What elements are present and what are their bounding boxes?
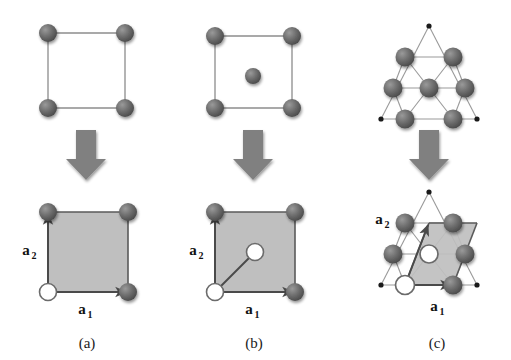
vector-label-a2-subscript: 2	[385, 219, 390, 230]
atom	[396, 110, 415, 129]
atom	[384, 245, 403, 264]
basis-center-circle	[420, 245, 438, 263]
vector-label-a1-subscript: 1	[88, 309, 93, 320]
atom	[444, 276, 463, 295]
panel-caption-a: (a)	[79, 335, 96, 352]
atom	[444, 110, 463, 129]
atom	[39, 99, 57, 117]
panel-caption-b: (b)	[245, 335, 263, 352]
atom	[119, 203, 137, 221]
lattice-site-dot	[426, 189, 431, 194]
atom	[39, 24, 57, 42]
lattice-site-dot	[474, 116, 479, 121]
vector-label-a2: a	[375, 211, 383, 227]
lattice-site-dot	[378, 116, 383, 121]
vector-label-a1-subscript: 1	[440, 306, 445, 317]
atom	[116, 24, 134, 42]
vector-label-a2-subscript: 2	[32, 250, 37, 261]
unit-cell-area	[48, 212, 128, 292]
atom	[286, 283, 304, 301]
atom	[444, 214, 463, 233]
atom	[420, 79, 439, 98]
atom	[39, 203, 57, 221]
atom	[396, 48, 415, 67]
atom	[206, 99, 224, 117]
atom	[396, 214, 415, 233]
atom	[119, 283, 137, 301]
lattice-site-dot	[474, 282, 479, 287]
atom	[283, 99, 301, 117]
basis-origin-circle	[40, 284, 57, 301]
lattice-site-dot	[378, 282, 383, 287]
atom	[283, 27, 301, 45]
atom	[116, 99, 134, 117]
atom	[286, 203, 304, 221]
vector-label-a1: a	[245, 301, 253, 317]
atom	[456, 79, 475, 98]
basis-origin-circle	[207, 284, 224, 301]
atom	[456, 245, 475, 264]
atom	[206, 27, 224, 45]
basis-origin-circle	[396, 276, 415, 295]
lattice-figure: a 2 a 1 a 2 a 1	[0, 0, 511, 360]
vector-label-a1: a	[430, 298, 438, 314]
atom	[444, 48, 463, 67]
vector-label-a2-subscript: 2	[199, 250, 204, 261]
vector-label-a1-subscript: 1	[255, 309, 260, 320]
atom	[206, 203, 224, 221]
vector-label-a2: a	[189, 242, 197, 258]
atom	[384, 79, 403, 98]
vector-label-a2: a	[22, 242, 30, 258]
vector-label-a1: a	[78, 301, 86, 317]
atom-center	[245, 68, 261, 84]
basis-center-circle	[247, 244, 264, 261]
panel-caption-c: (c)	[429, 335, 446, 352]
lattice-site-dot	[426, 23, 431, 28]
